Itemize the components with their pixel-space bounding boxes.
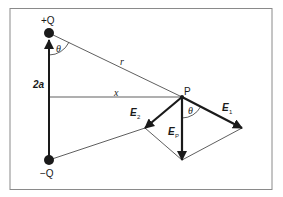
label-p: P (184, 86, 191, 97)
label-plus-q: +Q (41, 15, 55, 26)
label-2a: 2a (32, 79, 45, 90)
label-x: x (113, 87, 119, 98)
label-e1: E 1 (222, 102, 233, 115)
dipole-field-diagram: +Q −Q θ θ 2a r x P E 1 E 2 E P (0, 0, 283, 197)
svg-text:E: E (222, 102, 229, 113)
label-theta-p: θ (188, 105, 193, 116)
field-vector-e2 (145, 97, 182, 128)
svg-text:1: 1 (229, 109, 233, 115)
label-r: r (120, 56, 124, 67)
label-theta-top: θ (56, 43, 61, 54)
svg-text:2: 2 (137, 114, 141, 120)
label-ep: E P (168, 126, 179, 139)
svg-text:E: E (168, 126, 175, 137)
svg-text:P: P (175, 133, 179, 139)
label-e2: E 2 (130, 107, 141, 120)
svg-text:E: E (130, 107, 137, 118)
negative-charge (44, 155, 54, 165)
line-minus-to-e2 (49, 128, 145, 160)
label-minus-q: −Q (40, 168, 54, 179)
parallelogram-side-right (182, 128, 242, 160)
positive-charge (44, 28, 54, 38)
